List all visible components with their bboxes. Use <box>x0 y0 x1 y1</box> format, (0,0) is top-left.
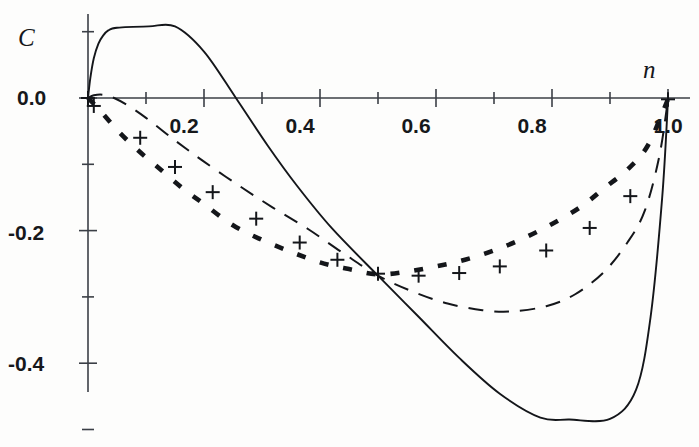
plus-marker-7 <box>330 253 344 267</box>
plus-marker-14 <box>623 189 637 203</box>
plus-marker-13 <box>583 221 597 235</box>
x-tick-label-0.6: 0.6 <box>401 114 430 137</box>
y-axis-label: C <box>18 24 35 51</box>
plus-marker-4 <box>206 185 220 199</box>
plus-marker-11 <box>493 259 507 273</box>
plus-marker-12 <box>539 243 553 257</box>
curves-group <box>88 24 668 421</box>
plus-marker-15 <box>661 92 675 106</box>
plus-marker-3 <box>168 160 182 174</box>
y-tick-label--0.2: -0.2 <box>8 221 44 244</box>
x-tick-label-0.8: 0.8 <box>517 114 547 137</box>
x-tick-label-0.4: 0.4 <box>285 114 315 137</box>
x-axis-label: n <box>643 56 656 83</box>
correlation-plot: C n 0.0 -0.2 -0.4 0.2 0.4 0.6 0.8 1.0 <box>0 0 699 447</box>
plus-marker-10 <box>452 266 466 280</box>
figure-container: C n 0.0 -0.2 -0.4 0.2 0.4 0.6 0.8 1.0 <box>0 0 699 447</box>
x-tick-label-1.0: 1.0 <box>653 114 682 137</box>
y-tick-label-0.0: 0.0 <box>17 86 46 109</box>
y-tick-label--0.4: -0.4 <box>8 352 45 375</box>
axis-tick-labels-group: C n 0.0 -0.2 -0.4 0.2 0.4 0.6 0.8 1.0 <box>8 24 683 375</box>
plus-marker-6 <box>293 236 307 250</box>
solid-curve <box>88 24 668 421</box>
x-tick-label-0.2: 0.2 <box>169 114 198 137</box>
plus-marker-5 <box>249 212 263 226</box>
plus-marker-9 <box>412 269 426 283</box>
axes-group <box>79 14 690 430</box>
plus-marker-2 <box>133 131 147 145</box>
